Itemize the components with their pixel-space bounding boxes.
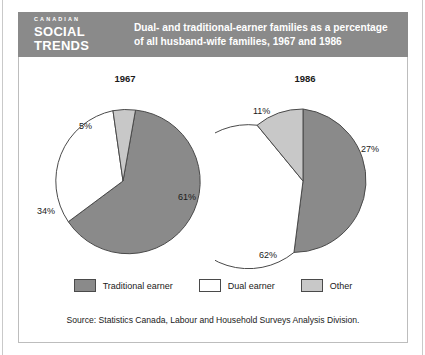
legend-swatch-traditional <box>74 279 96 292</box>
chart-legend: Traditional earner Dual earner Other <box>19 279 407 292</box>
source-note: Source: Statistics Canada, Labour and Ho… <box>19 315 407 325</box>
pie-svg-1986 <box>215 93 395 269</box>
figure-title: Dual- and traditional-earner families as… <box>114 21 408 48</box>
legend-label-traditional: Traditional earner <box>103 281 173 291</box>
figure-body: 1967 5% 34% 61% <box>18 57 408 343</box>
logo-line-canadian: CANADIAN <box>34 17 114 23</box>
figure-header: CANADIAN SOCIAL TRENDS Dual- and traditi… <box>18 12 408 57</box>
legend-swatch-dual <box>199 279 221 292</box>
pie-label-other-1967: 5% <box>79 121 92 131</box>
chart-title-1967: 1967 <box>35 73 215 84</box>
logo-line-social: SOCIAL <box>34 25 114 38</box>
pie-label-traditional-1967: 61% <box>178 192 196 202</box>
pie-area-1986: 11% 27% 62% <box>215 93 395 269</box>
legend-swatch-other <box>301 279 323 292</box>
figure-page: CANADIAN SOCIAL TRENDS Dual- and traditi… <box>0 0 425 355</box>
charts-row: 1967 5% 34% 61% <box>19 57 407 275</box>
pie-slice-traditional-1986 <box>294 109 366 252</box>
legend-item-traditional: Traditional earner <box>74 279 173 292</box>
legend-item-dual: Dual earner <box>199 279 275 292</box>
pie-svg-1967 <box>35 93 215 269</box>
pie-label-dual-1967: 34% <box>37 206 55 216</box>
logo-line-trends: TRENDS <box>34 39 114 52</box>
pie-label-other-1986: 11% <box>253 106 270 116</box>
chart-title-1986: 1986 <box>215 73 395 84</box>
pie-label-traditional-1986: 27% <box>361 144 379 154</box>
page-rule-left <box>2 0 3 355</box>
publication-logo: CANADIAN SOCIAL TRENDS <box>18 17 114 52</box>
pie-area-1967: 5% 34% 61% <box>35 93 215 269</box>
legend-item-other: Other <box>301 279 353 292</box>
pie-label-dual-1986: 62% <box>259 250 277 260</box>
page-rule-right <box>422 0 423 355</box>
legend-label-dual: Dual earner <box>228 281 275 291</box>
legend-label-other: Other <box>330 281 353 291</box>
